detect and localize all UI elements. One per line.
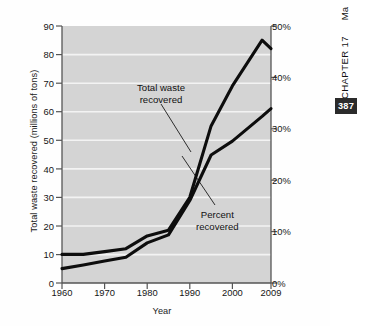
ytick-right-40pct: 40%	[272, 72, 302, 83]
annotation-percent-line2: recovered	[196, 221, 239, 233]
annotation-total-line1: Total waste	[137, 82, 185, 94]
annotation-percent-recovered: Percent recovered	[196, 209, 239, 232]
x-axis-ticklabels: 1960 1970 1980 1990 2000 2009	[0, 287, 330, 307]
page-margin-column: Ma CHAPTER 17 387	[330, 0, 365, 326]
ytick-right-50pct: 50%	[272, 21, 302, 32]
ytick-left-90: 90	[28, 21, 54, 32]
chart-figure: 90 80 70 60 50 40 30 20 10 0 50% 40% 30%…	[0, 0, 330, 326]
xtick-1980: 1980	[127, 287, 167, 298]
figure-page: 90 80 70 60 50 40 30 20 10 0 50% 40% 30%…	[0, 0, 365, 326]
y-axis-right-ticklabels: 50% 40% 30% 20% 10% 0%	[272, 0, 306, 326]
xtick-1990: 1990	[170, 287, 210, 298]
annotation-total-waste-recovered: Total waste recovered	[137, 82, 185, 105]
xtick-2000: 2000	[212, 287, 252, 298]
annotation-percent-line1: Percent	[196, 209, 239, 221]
y-axis-left-title: Total waste recovered (millions of tons)	[29, 31, 39, 271]
annotation-total-line2: recovered	[137, 94, 185, 106]
ytick-right-20pct: 20%	[272, 175, 302, 186]
xtick-2009: 2009	[251, 287, 291, 298]
y-ticks-left	[56, 26, 62, 283]
chapter-label: CHAPTER 17	[339, 28, 350, 108]
xtick-1960: 1960	[42, 287, 82, 298]
plot-panel	[62, 26, 271, 283]
ytick-right-30pct: 30%	[272, 123, 302, 134]
xtick-1970: 1970	[85, 287, 125, 298]
page-number-badge: 387	[335, 98, 357, 114]
ytick-right-10pct: 10%	[272, 226, 302, 237]
x-axis-title: Year	[62, 306, 262, 316]
